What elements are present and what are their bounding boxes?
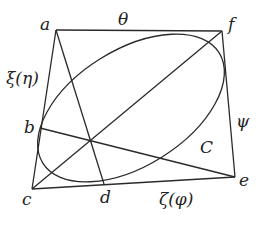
geometry-diagram: a f b c d e θ ξ(η) ψ ζ(φ) C [0,0,262,240]
inscribed-ellipse-c [12,4,250,213]
edge-label-bottom: ζ(φ) [159,189,193,209]
label-d: d [100,187,111,207]
side-f-e [222,31,235,177]
line-a-d [56,30,104,184]
label-f: f [226,14,237,34]
side-a-f [56,30,222,31]
curve-label: C [200,137,213,157]
label-b: b [24,117,35,137]
line-c-f [32,31,222,189]
edge-label-top: θ [118,9,128,29]
edge-label-left: ξ(η) [6,68,39,88]
label-c: c [22,189,32,209]
edge-label-right: ψ [236,111,250,131]
label-e: e [239,170,249,190]
label-a: a [40,14,50,34]
